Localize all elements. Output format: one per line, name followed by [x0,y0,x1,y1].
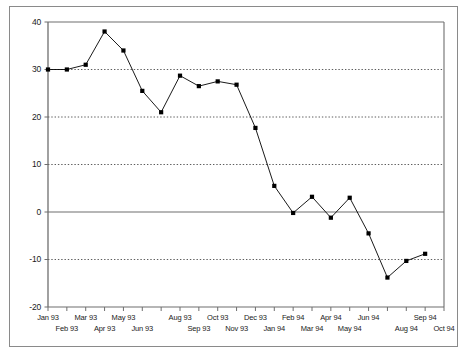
chart-figure: 403020100-10-20 Jan 93Mar 93May 93Aug 93… [0,0,467,355]
x-axis-tick-label: May 94 [338,324,362,333]
data-point-marker [253,126,257,130]
x-axis-tick-label: Oct 94 [433,324,454,333]
y-axis-tick-label: 0 [15,207,41,217]
x-axis-tick-label: Jan 94 [263,324,285,333]
gridlines-group [48,70,444,260]
y-axis-tick-label: 30 [15,64,41,74]
data-point-marker [423,252,427,256]
data-point-marker [404,259,408,263]
y-axis-tick-label: -20 [15,302,41,312]
data-point-marker [197,84,201,88]
x-axis-tick-label: Feb 93 [56,324,78,333]
data-point-marker [140,89,144,93]
x-axis-tick-label: Aug 94 [395,324,418,333]
data-point-marker [291,211,295,215]
data-point-marker [234,83,238,87]
data-point-marker [102,29,106,33]
data-point-marker [348,196,352,200]
x-axis-tick-label: Jan 93 [37,313,59,322]
x-axis-tick-label: Mar 94 [301,324,323,333]
data-point-marker [121,48,125,52]
data-point-marker [329,216,333,220]
data-point-marker [272,184,276,188]
y-axis-tick-label: -10 [15,254,41,264]
data-point-marker [310,195,314,199]
x-axis-tick-label: Sep 94 [414,313,437,322]
x-axis-tick-label: Jun 94 [358,313,380,322]
x-axis-tick-label: Apr 93 [94,324,115,333]
data-point-marker [159,110,163,114]
data-point-marker [46,67,50,71]
x-axis-tick-label: Sep 93 [187,324,210,333]
data-line [48,32,425,278]
y-axis-tick-label: 40 [15,17,41,27]
x-axis-tick-label: May 93 [112,313,136,322]
x-axis-tick-label: Jun 93 [131,324,153,333]
x-axis-tick-label: Feb 94 [282,313,304,322]
y-axis-tick-label: 20 [15,112,41,122]
y-axis-tick-label: 10 [15,159,41,169]
data-point-marker [178,74,182,78]
x-axis-tick-label: Nov 93 [225,324,248,333]
data-point-marker [366,231,370,235]
x-axis-tick-label: Apr 94 [320,313,341,322]
data-markers-group [46,29,427,279]
data-point-marker [216,79,220,83]
x-axis-tick-label: Mar 93 [74,313,96,322]
x-axis-tick-label: Dec 93 [244,313,267,322]
data-point-marker [84,63,88,67]
x-axis-tick-label: Aug 93 [169,313,192,322]
x-tick-marks-group [48,307,444,311]
x-axis-tick-label: Oct 93 [207,313,228,322]
data-point-marker [65,67,69,71]
data-point-marker [385,275,389,279]
line-chart-plot [0,0,467,355]
